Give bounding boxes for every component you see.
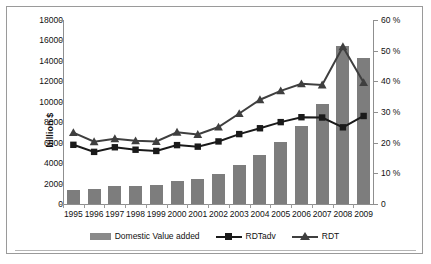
chart-frame: billion $ 180001600014000120001000080006… [6,6,423,254]
marker-square [174,142,180,148]
y-tick-mark-right [374,173,378,174]
y-tick-left: 4000 [23,159,63,168]
x-tick-mark [63,204,64,208]
y-tick-mark-left [59,102,63,103]
y-tick-mark-right [374,81,378,82]
y-tick-mark-left [59,81,63,82]
line-square-swatch-icon [216,232,242,241]
marker-square [91,149,97,155]
x-tick-mark [125,204,126,208]
x-tick-mark [146,204,147,208]
bar-swatch-icon [90,233,111,240]
marker-square [70,142,76,148]
legend-item-domestic-value-added: Domestic Value added [90,231,200,241]
x-tick-label: 2009 [351,209,377,219]
marker-square [319,114,325,120]
y-tick-left: 6000 [23,139,63,148]
x-axis-labels: 1995199619971998199920002001200220032004… [63,207,374,223]
marker-square [153,148,159,154]
y-tick-right: 20 % [378,139,416,148]
legend-label-rdt: RDT [322,231,339,241]
x-tick-mark [270,204,271,208]
x-axis-line [63,204,374,205]
y-axis-right-ticks: 60 %50 %40 %30 %20 %10 %0 [378,7,418,253]
x-tick-mark [229,204,230,208]
y-tick-left: 10000 [23,98,63,107]
y-tick-mark-left [59,143,63,144]
x-tick-mark [291,204,292,208]
legend-item-rdtadv: RDTadv [216,231,276,241]
y-tick-mark-left [59,61,63,62]
y-tick-left: 14000 [23,57,63,66]
y-tick-mark-right [374,51,378,52]
marker-square [236,131,242,137]
y-tick-right: 30 % [378,108,416,117]
x-tick-mark [333,204,334,208]
y-tick-mark-right [374,204,378,205]
y-tick-mark-left [59,40,63,41]
line-series-group [63,20,374,204]
marker-square [195,143,201,149]
y-tick-right: 50 % [378,47,416,56]
marker-square [360,113,366,119]
y-tick-mark-left [59,20,63,21]
marker-square [298,114,304,120]
y-tick-left: 16000 [23,36,63,45]
chart-legend: Domestic Value added RDTadv RDT [7,231,422,241]
y-tick-left: 2000 [23,180,63,189]
y-tick-mark-left [59,163,63,164]
y-tick-left: 12000 [23,77,63,86]
marker-square [340,124,346,130]
y-tick-left: 8000 [23,118,63,127]
y-tick-mark-left [59,122,63,123]
y-tick-mark-right [374,143,378,144]
y-axis-left-ticks: 1800016000140001200010000800060004000200… [21,7,63,253]
marker-square [132,147,138,153]
x-tick-mark [353,204,354,208]
y-tick-right: 0 [378,200,416,209]
legend-label-domestic-value-added: Domestic Value added [115,231,200,241]
y-tick-right: 40 % [378,77,416,86]
x-tick-mark [104,204,105,208]
x-tick-mark [84,204,85,208]
marker-square [215,138,221,144]
marker-square [257,125,263,131]
y-tick-mark-right [374,20,378,21]
y-tick-mark-right [374,112,378,113]
x-tick-mark [167,204,168,208]
marker-triangle [69,128,78,136]
y-tick-left: 18000 [23,16,63,25]
marker-triangle [359,78,368,86]
line-series-rdtadv [70,113,367,155]
y-tick-left: 0 [23,200,63,209]
x-tick-mark [208,204,209,208]
chart-canvas: billion $ 180001600014000120001000080006… [7,7,422,253]
x-tick-mark [250,204,251,208]
marker-triangle [339,42,348,50]
line-triangle-swatch-icon [292,232,318,241]
marker-triangle [214,123,223,131]
marker-square [112,144,118,150]
y-tick-mark-left [59,184,63,185]
y-tick-right: 10 % [378,169,416,178]
marker-square [278,119,284,125]
x-tick-mark [187,204,188,208]
x-tick-mark [312,204,313,208]
legend-label-rdtadv: RDTadv [246,231,276,241]
line-series-rdt [69,42,368,145]
y-tick-right: 60 % [378,16,416,25]
legend-item-rdt: RDT [292,231,339,241]
legend-separator [15,250,416,251]
